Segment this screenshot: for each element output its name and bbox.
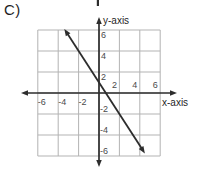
y-tick-label: -4 [100,125,108,135]
x-tick-label: -2 [79,97,87,107]
y-axis-label: y-axis [103,15,129,26]
x-tick-label: 6 [153,80,158,90]
y-tick-label: -6 [100,146,108,156]
y-axis-up-arrow-icon [96,17,102,24]
x-tick-label: -6 [38,97,46,107]
x-axis-right-arrow-icon [170,90,177,96]
graph-option-c: C) -6-4-2246-6-4-2246 y-axis x-axis [0,0,199,170]
x-tick-label: -4 [58,97,66,107]
x-axis-left-arrow-icon [21,90,28,96]
x-tick-label: 2 [112,80,117,90]
y-tick-label: 2 [101,72,106,82]
x-axis-label: x-axis [162,97,188,108]
cropped-arrow-fragment-icon [97,0,99,6]
y-tick-label: -2 [100,104,108,114]
y-axis-down-arrow-icon [96,160,102,167]
y-tick-label: 4 [101,51,106,61]
y-tick-label: 6 [101,30,106,40]
x-tick-label: 4 [132,80,137,90]
coordinate-plane: -6-4-2246-6-4-2246 [0,0,199,170]
